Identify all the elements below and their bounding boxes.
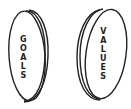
- goals-label: G O A L S: [20, 35, 27, 80]
- goals-coin-icon: [6, 10, 48, 102]
- values-label: V A L U E S: [100, 27, 107, 81]
- goals-letter: O: [20, 44, 27, 53]
- values-letter: E: [101, 63, 106, 72]
- goals-letter: A: [20, 53, 26, 62]
- values-letter: V: [100, 27, 106, 36]
- values-letter: U: [100, 54, 107, 63]
- values-letter: L: [101, 45, 106, 54]
- goals-letter: L: [21, 62, 26, 71]
- values-letter: A: [100, 36, 106, 45]
- goals-letter: G: [20, 35, 27, 44]
- goals-letter: S: [21, 71, 27, 80]
- values-letter: S: [100, 72, 106, 81]
